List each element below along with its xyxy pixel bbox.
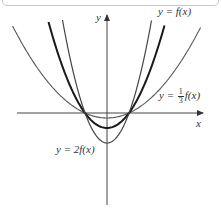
label-one-third-suffix: f(x)	[185, 89, 200, 101]
label-one-third-f: y = 13f(x)	[159, 88, 200, 105]
fraction-one-third: 13	[178, 88, 184, 105]
fraction-denominator: 3	[178, 97, 184, 105]
label-f: y = f(x)	[158, 6, 191, 17]
label-two-f: y = 2f(x)	[56, 144, 95, 155]
label-one-third-prefix: y =	[159, 89, 177, 101]
y-axis-label: y	[96, 12, 101, 23]
x-axis-label: x	[196, 118, 201, 129]
